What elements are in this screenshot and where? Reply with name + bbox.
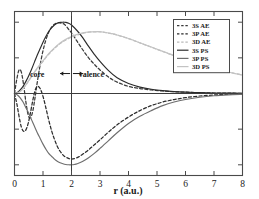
x-tick-label: 7 bbox=[212, 179, 217, 189]
x-tick-label: 0 bbox=[12, 179, 17, 189]
legend-label: 3S AE bbox=[192, 22, 210, 29]
x-tick-label: 1 bbox=[41, 179, 46, 189]
x-tick-label: 5 bbox=[155, 179, 160, 189]
x-tick-label: 3 bbox=[98, 179, 103, 189]
chart-figure: 012345678 r (a.u.) corevalence 3S AE3P A… bbox=[0, 0, 259, 199]
legend-label: 3D PS bbox=[192, 63, 210, 70]
plot-canvas: 012345678 r (a.u.) corevalence 3S AE3P A… bbox=[0, 0, 259, 199]
x-tick-label: 8 bbox=[240, 179, 245, 189]
legend-label: 3D AE bbox=[192, 38, 211, 45]
x-tick-label: 6 bbox=[183, 179, 188, 189]
x-tick-label: 2 bbox=[69, 179, 74, 189]
legend-label: 3P PS bbox=[192, 55, 209, 62]
legend-label: 3S PS bbox=[192, 47, 209, 54]
legend-label: 3P AE bbox=[192, 30, 210, 37]
x-axis-title: r (a.u.) bbox=[114, 185, 143, 197]
legend: 3S AE3P AE3D AE3S PS3P PS3D PS bbox=[174, 20, 230, 73]
core-label: core bbox=[30, 70, 45, 79]
